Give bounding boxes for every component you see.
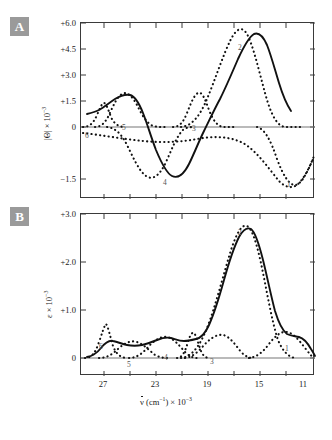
y-tick-b-3: 0: [38, 353, 76, 363]
y-tick-a-0: +6.0: [38, 18, 76, 28]
x-tick-0: 27: [85, 379, 121, 389]
x-axis-unit-pre: (cm: [144, 397, 159, 407]
band-label-a-2: 2: [238, 43, 242, 52]
band-label-b-6: 6: [99, 342, 103, 351]
figure-container: A |Θ| × 10−3 +6.0 +4.5 +3.0 +1.5 0 −1.5: [0, 0, 332, 440]
band-label-a-5: 5: [122, 123, 126, 132]
component-band-1-a: [257, 127, 314, 185]
x-tick-3: 15: [241, 379, 277, 389]
y-tick-a-4: 0: [38, 122, 76, 132]
component-band-6-b: [85, 324, 127, 358]
panel-label-a: A: [10, 17, 29, 36]
y-tick-b-0: +3.0: [38, 209, 76, 219]
x-tick-4: 11: [285, 379, 321, 389]
x-axis-unit-post: ) × 10: [165, 397, 185, 407]
y-tick-a-2: +3.0: [38, 70, 76, 80]
y-tick-b-2: +1.0: [38, 305, 76, 315]
y-tick-a-1: +4.5: [38, 44, 76, 54]
component-band-3-a: [173, 93, 235, 127]
band-label-b-1: 1: [285, 344, 289, 353]
y-tick-a-3: +1.5: [38, 96, 76, 106]
experimental-curve-a: [87, 33, 291, 176]
plot-area-a: [80, 22, 314, 198]
plot-svg-b: [81, 214, 315, 376]
component-band-2-a: [181, 29, 303, 127]
band-label-a-4: 4: [163, 178, 167, 187]
plot-svg-a: [81, 23, 315, 199]
component-band-5-a: [95, 93, 165, 127]
x-axis-title: ν (cm−1) × 10−3: [0, 397, 332, 407]
y-tick-b-1: +2.0: [38, 257, 76, 267]
experimental-curve-b: [87, 228, 315, 357]
plot-area-b: [80, 213, 314, 375]
axis-ticks-b: [81, 214, 315, 376]
band-label-a-3: 3: [192, 124, 196, 133]
y-tick-a-5: −1.5: [38, 174, 76, 184]
x-axis-scale-exponent: −3: [186, 396, 192, 402]
band-label-b-2: 2: [238, 228, 242, 237]
band-label-a-6: 6: [85, 131, 89, 140]
y-axis-title-a-exponent: −3: [41, 107, 47, 113]
band-label-b-5: 5: [127, 360, 131, 369]
x-tick-1: 23: [137, 379, 173, 389]
band-label-b-3: 3: [210, 357, 214, 366]
axis-ticks-a: [81, 23, 315, 199]
component-band-1-b: [249, 332, 314, 358]
x-axis-symbol: ν: [140, 397, 144, 407]
component-band-5-b: [99, 341, 167, 358]
x-tick-2: 19: [189, 379, 225, 389]
band-label-b-4: 4: [164, 353, 168, 362]
y-axis-title-b-exponent: −3: [43, 291, 49, 297]
panel-label-b: B: [10, 207, 29, 226]
band-label-a-1: 1: [287, 180, 291, 189]
